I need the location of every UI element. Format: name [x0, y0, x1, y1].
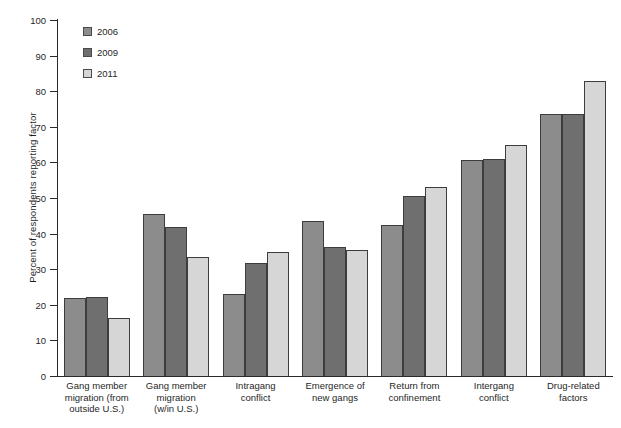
y-tick-mark [50, 198, 57, 199]
y-tick-label: 70 [0, 121, 46, 132]
y-tick-mark [50, 91, 57, 92]
y-tick-label: 40 [0, 228, 46, 239]
bar [223, 294, 245, 376]
bar-group [223, 20, 289, 376]
y-tick-label: 100 [0, 15, 46, 26]
bar [324, 247, 346, 376]
caption-remnant [82, 417, 312, 426]
bar [187, 257, 209, 376]
bar [267, 252, 289, 376]
x-axis-label-line: (w/in U.S.) [121, 403, 231, 415]
x-axis-label-line: factors [518, 392, 621, 404]
bar [483, 159, 505, 376]
x-axis-label-line: Drug-related [518, 380, 621, 392]
y-tick-mark [50, 56, 57, 57]
bar [143, 214, 165, 376]
y-tick-label: 30 [0, 264, 46, 275]
x-axis-label: Drug-relatedfactors [518, 380, 621, 403]
bar-group [461, 20, 527, 376]
bar-group [143, 20, 209, 376]
bar [562, 114, 584, 376]
bars-layer [57, 20, 613, 376]
y-tick-mark [50, 127, 57, 128]
bar [86, 297, 108, 376]
y-tick-mark [50, 376, 57, 377]
x-axis-line [57, 376, 613, 377]
y-tick-mark [50, 269, 57, 270]
y-tick-label: 90 [0, 50, 46, 61]
bar [346, 250, 368, 376]
bar [64, 298, 86, 376]
bar [584, 81, 606, 376]
y-tick-mark [50, 20, 57, 21]
bar [425, 187, 447, 376]
bar-group [381, 20, 447, 376]
bar [165, 227, 187, 376]
bar [540, 114, 562, 376]
bar [302, 221, 324, 376]
bar [403, 196, 425, 376]
y-tick-label: 50 [0, 193, 46, 204]
y-tick-label: 20 [0, 299, 46, 310]
y-tick-mark [50, 162, 57, 163]
y-tick-label: 60 [0, 157, 46, 168]
y-tick-mark [50, 305, 57, 306]
y-tick-mark [50, 234, 57, 235]
bar [461, 160, 483, 376]
bar [505, 145, 527, 376]
bar [381, 225, 403, 376]
y-tick-label: 0 [0, 371, 46, 382]
y-tick-label: 10 [0, 335, 46, 346]
bar-group [540, 20, 606, 376]
bar-chart: Percent of respondents reporting factor … [0, 0, 621, 428]
bar [108, 318, 130, 376]
bar-group [64, 20, 130, 376]
bar-group [302, 20, 368, 376]
y-tick-label: 80 [0, 86, 46, 97]
y-tick-mark [50, 340, 57, 341]
bar [245, 263, 267, 376]
